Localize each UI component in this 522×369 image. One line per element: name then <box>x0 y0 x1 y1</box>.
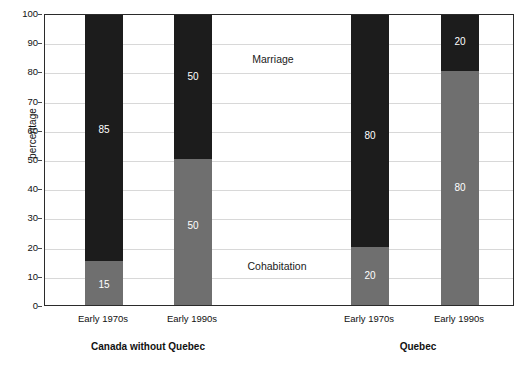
x-tick-label: Early 1990s <box>167 313 217 324</box>
bar-stack[interactable]: 1585 <box>85 14 123 305</box>
bar-value-label: 50 <box>174 72 212 82</box>
bar-segment-marriage[interactable] <box>174 14 212 159</box>
y-tick-label: 40 <box>14 184 38 194</box>
bar-value-label: 80 <box>351 131 389 141</box>
y-tick-mark <box>38 43 42 44</box>
group-label: Quebec <box>400 341 437 352</box>
bar-value-label: 20 <box>351 271 389 281</box>
y-tick-label: 30 <box>14 213 38 223</box>
y-tick-mark <box>38 72 42 73</box>
y-tick-label: 50 <box>14 155 38 165</box>
bar-stack[interactable]: 5050 <box>174 14 212 305</box>
annotation-label: Marriage <box>252 53 293 65</box>
annotation-label: Cohabitation <box>248 260 307 272</box>
y-tick-label: 0 <box>14 301 38 311</box>
y-tick-mark <box>38 277 42 278</box>
y-tick-label: 20 <box>14 243 38 253</box>
bar-stack[interactable]: 8020 <box>441 14 479 305</box>
x-tick-label: Early 1990s <box>434 313 484 324</box>
y-tick-label: 80 <box>14 67 38 77</box>
y-tick-mark <box>38 131 42 132</box>
y-tick-mark <box>38 189 42 190</box>
plot-area: 1585505020808020 MarriageCohabitation <box>44 14 514 306</box>
bar-stack[interactable]: 2080 <box>351 14 389 305</box>
y-tick-mark <box>38 218 42 219</box>
x-tick-label: Early 1970s <box>78 313 128 324</box>
y-tick-mark <box>38 102 42 103</box>
bar-segment-cohabitation[interactable] <box>174 159 212 305</box>
bar-value-label: 50 <box>174 221 212 231</box>
bar-value-label: 85 <box>85 125 123 135</box>
y-tick-label: 60 <box>14 126 38 136</box>
y-tick-label: 70 <box>14 97 38 107</box>
bar-value-label: 80 <box>441 183 479 193</box>
x-tick-label: Early 1970s <box>344 313 394 324</box>
y-tick-mark <box>38 248 42 249</box>
bar-value-label: 15 <box>85 280 123 290</box>
y-tick-mark <box>38 14 42 15</box>
bar-segment-marriage[interactable] <box>85 14 123 261</box>
y-tick-mark <box>38 306 42 307</box>
group-label: Canada without Quebec <box>91 341 205 352</box>
y-tick-label: 90 <box>14 38 38 48</box>
stacked-bar-chart-figure: percentage 0102030405060708090100 158550… <box>0 0 522 369</box>
bar-value-label: 20 <box>441 37 479 47</box>
y-tick-label: 10 <box>14 272 38 282</box>
y-tick-mark <box>38 160 42 161</box>
y-axis-tick-labels: 0102030405060708090100 <box>8 0 38 369</box>
y-tick-label: 100 <box>14 9 38 19</box>
